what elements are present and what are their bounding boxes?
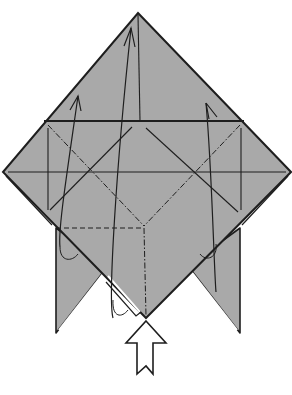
push-arrow-group xyxy=(126,321,166,374)
diagram-container: Origami folding step diagram Push in fro… xyxy=(0,0,292,395)
diamond-body xyxy=(3,13,291,318)
center-loop-icon xyxy=(113,300,128,315)
diamond-shape xyxy=(3,13,291,318)
push-up-arrow-icon xyxy=(126,321,166,374)
origami-diagram xyxy=(0,0,292,395)
